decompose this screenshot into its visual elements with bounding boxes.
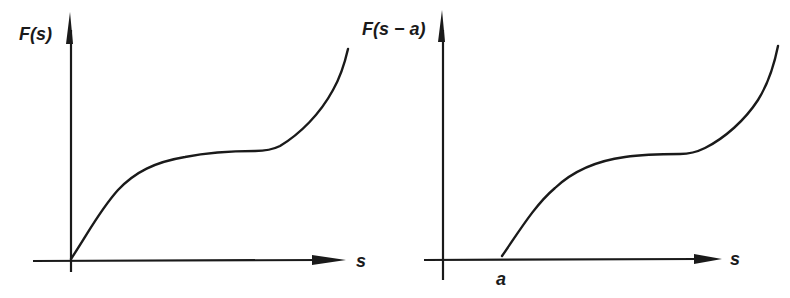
left-curve-f-of-s xyxy=(71,49,348,259)
right-y-axis-label: F(s − a) xyxy=(362,19,426,39)
right-x-axis-arrowhead xyxy=(694,254,722,264)
right-panel: F(s − a) s a xyxy=(362,10,778,289)
right-curve-f-of-s-minus-a xyxy=(502,46,778,256)
left-x-axis xyxy=(33,260,320,261)
right-x-axis-label: s xyxy=(730,249,740,269)
left-panel: F(s) s xyxy=(19,12,366,272)
left-x-axis-arrowhead xyxy=(312,255,346,265)
shift-a-label: a xyxy=(496,269,506,289)
left-y-axis-label: F(s) xyxy=(19,24,52,44)
right-y-axis-arrowhead xyxy=(438,10,445,42)
right-x-axis xyxy=(424,259,700,260)
left-y-axis-arrowhead xyxy=(66,12,73,44)
left-x-axis-label: s xyxy=(356,251,366,271)
shift-theorem-diagram: F(s) s F(s − a) s a xyxy=(0,0,790,298)
